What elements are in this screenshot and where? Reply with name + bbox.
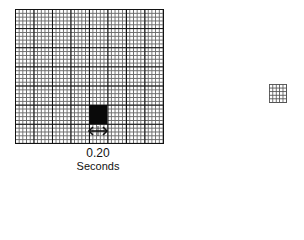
interval-unit-label: Seconds <box>66 160 130 172</box>
interval-value-label: 0.20 <box>70 146 126 160</box>
double-arrow-icon <box>86 125 110 137</box>
highlighted-large-square <box>89 105 107 124</box>
small-grid-square <box>269 84 287 103</box>
